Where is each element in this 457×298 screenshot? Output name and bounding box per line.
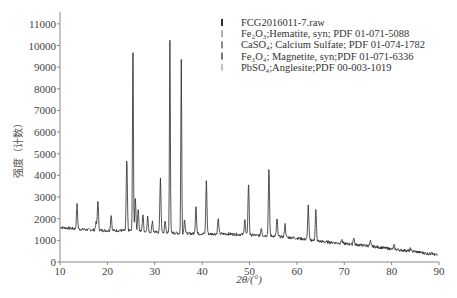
- legend-label-hematite: Fe₂O₃;Hematite, syn; PDF 01-071-5088: [241, 28, 409, 39]
- y-tick-label: 7000: [34, 104, 57, 116]
- y-tick-label: 8000: [34, 83, 57, 95]
- x-axis-label: 2θ/(°): [236, 273, 262, 286]
- y-tick-label: 5000: [34, 148, 57, 160]
- x-tick-label: 70: [339, 265, 351, 277]
- y-tick-label: 2000: [34, 213, 57, 225]
- legend: FCG2016011-7.rawFe₂O₃;Hematite, syn; PDF…: [221, 17, 425, 73]
- y-tick-label: 1000: [34, 234, 57, 246]
- legend-marker-anglesite: [221, 64, 223, 71]
- y-axis: 0100020003000400050006000700080009000100…: [29, 12, 61, 268]
- legend-label-raw: FCG2016011-7.raw: [241, 17, 325, 28]
- legend-marker-hematite: [221, 30, 223, 37]
- legend-marker-magnetite: [221, 53, 223, 60]
- y-tick-label: 3000: [34, 191, 57, 203]
- y-tick-label: 4000: [34, 169, 57, 181]
- legend-label-magnetite: Fe₃O₄; Magnetite, syn;PDF 01-071-6336: [241, 51, 413, 62]
- xrd-chart: 0100020003000400050006000700080009000100…: [0, 0, 457, 298]
- x-tick-label: 30: [149, 265, 161, 277]
- x-tick-label: 20: [102, 265, 114, 277]
- y-axis-label: 强度（计数）: [12, 118, 24, 178]
- y-tick-label: 6000: [34, 126, 57, 138]
- legend-label-caso4: CaSO₄; Calcium Sulfate; PDF 01-074-1782: [241, 39, 425, 50]
- x-tick-label: 90: [434, 265, 446, 277]
- legend-label-anglesite: PbSO₄;Anglesite;PDF 00-003-1019: [241, 62, 391, 73]
- y-tick-label: 10000: [29, 40, 57, 52]
- x-tick-label: 80: [386, 265, 398, 277]
- y-tick-label: 9000: [34, 61, 57, 73]
- x-tick-label: 10: [55, 265, 67, 277]
- legend-marker-caso4: [221, 41, 223, 48]
- x-tick-label: 60: [291, 265, 303, 277]
- legend-marker-raw: [221, 19, 223, 26]
- y-tick-label: 11000: [29, 18, 57, 30]
- x-tick-label: 40: [197, 265, 209, 277]
